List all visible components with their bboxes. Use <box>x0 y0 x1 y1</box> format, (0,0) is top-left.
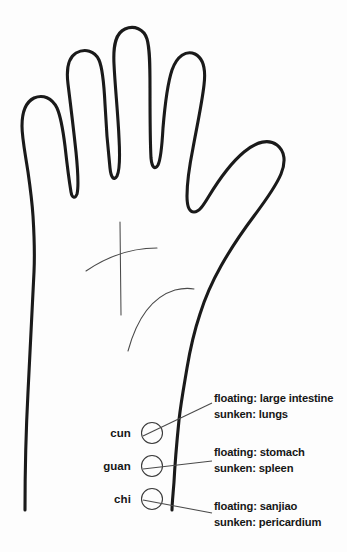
leader-line-guan <box>143 461 212 469</box>
hand-outline-group <box>22 27 284 510</box>
palm-lines-group <box>86 222 194 351</box>
position-label-guan: guan <box>103 460 131 472</box>
annotation-group-chi: floating: sanjiao sunken: pericardium <box>214 500 321 528</box>
annotation-chi-floating: floating: sanjiao <box>214 500 298 512</box>
annotation-cun-floating: floating: large intestine <box>214 392 333 404</box>
annotation-guan-sunken: sunken: spleen <box>214 462 294 474</box>
annotation-group-guan: floating: stomach sunken: spleen <box>214 446 305 474</box>
palm-line-curve <box>128 288 194 351</box>
annotation-group-cun: floating: large intestine sunken: lungs <box>214 392 333 420</box>
position-labels-group: cun guan chi <box>103 427 131 505</box>
hand-pulse-diagram: cun guan chi floating: large intestine s… <box>0 0 347 552</box>
annotation-cun-sunken: sunken: lungs <box>214 408 288 420</box>
pulse-circle-cun[interactable] <box>142 423 163 444</box>
leader-lines-group <box>143 403 212 513</box>
annotation-chi-sunken: sunken: pericardium <box>214 516 321 528</box>
diagram-canvas: cun guan chi floating: large intestine s… <box>0 0 347 552</box>
hand-outline-path <box>22 27 284 510</box>
palm-line-vertical <box>120 222 121 315</box>
pulse-circle-guan[interactable] <box>142 456 163 477</box>
annotation-guan-floating: floating: stomach <box>214 446 305 458</box>
leader-line-chi <box>143 500 212 513</box>
pulse-circle-chi[interactable] <box>142 489 163 510</box>
position-label-cun: cun <box>110 427 131 439</box>
palm-line-diagonal <box>86 248 157 271</box>
position-label-chi: chi <box>114 493 131 505</box>
